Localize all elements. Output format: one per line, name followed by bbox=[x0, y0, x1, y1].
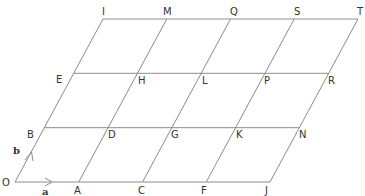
point-label-S: S bbox=[294, 6, 300, 17]
vector-b-label: b bbox=[13, 145, 20, 156]
parallelogram-grid-diagram: a b O A C F J B D G K N E H L P R I M Q … bbox=[0, 0, 365, 196]
point-label-N: N bbox=[299, 129, 306, 140]
slanted-gridlines bbox=[15, 19, 358, 182]
point-label-Q: Q bbox=[230, 6, 238, 17]
point-label-M: M bbox=[163, 6, 172, 17]
point-label-I: I bbox=[102, 6, 105, 17]
point-label-F: F bbox=[201, 185, 207, 196]
point-label-P: P bbox=[264, 75, 270, 86]
point-label-K: K bbox=[236, 129, 243, 140]
point-label-T: T bbox=[356, 6, 364, 17]
vector-a-label: a bbox=[42, 186, 49, 196]
gridline-col-4 bbox=[270, 19, 358, 182]
point-label-C: C bbox=[138, 185, 145, 196]
point-label-D: D bbox=[108, 129, 116, 140]
gridline-col-1 bbox=[79, 19, 167, 182]
point-label-H: H bbox=[138, 75, 146, 86]
point-label-A: A bbox=[74, 185, 81, 196]
point-label-R: R bbox=[328, 75, 335, 86]
point-label-E: E bbox=[56, 74, 62, 85]
gridline-col-3 bbox=[206, 19, 294, 182]
point-labels: O A C F J B D G K N E H L P R I M Q S T bbox=[2, 6, 364, 196]
point-label-B: B bbox=[27, 129, 34, 140]
point-label-L: L bbox=[202, 75, 208, 86]
point-label-O: O bbox=[2, 177, 10, 188]
point-label-J: J bbox=[264, 185, 268, 196]
point-label-G: G bbox=[171, 129, 179, 140]
gridline-col-0 bbox=[15, 19, 103, 182]
gridline-col-2 bbox=[143, 19, 231, 182]
